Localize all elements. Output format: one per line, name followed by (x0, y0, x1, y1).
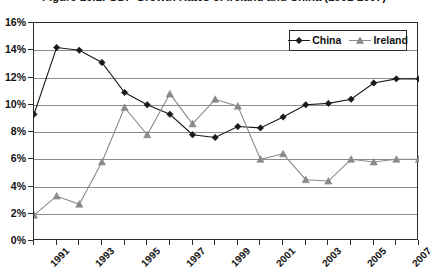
series-line (34, 94, 419, 215)
x-tick-label: 2001 (275, 246, 298, 269)
y-tick-label: 8% (11, 126, 26, 137)
data-point (235, 123, 241, 129)
data-point (393, 76, 399, 82)
legend-entry-ireland: Ireland (349, 35, 407, 46)
x-tick-label: 2007 (411, 246, 434, 269)
series-china (34, 44, 419, 140)
data-point (280, 150, 287, 157)
x-tick-label: 2003 (320, 246, 343, 269)
legend-label-ireland: Ireland (373, 35, 407, 46)
x-axis-labels: 199119931995199719992001200320052007 (0, 240, 428, 269)
chart-title: Figure 16.1: GDP Growth Rates of Ireland… (0, 0, 428, 3)
series-line (34, 48, 419, 138)
data-point (76, 201, 83, 208)
data-point (98, 158, 105, 165)
data-series-layer (34, 23, 419, 241)
y-tick-label: 2% (11, 208, 26, 219)
series-ireland (34, 90, 419, 218)
y-axis: 0%2%4%6%8%10%12%14%16% (0, 0, 33, 269)
data-point (325, 100, 331, 106)
plot-area (33, 22, 418, 240)
legend-label-china: China (312, 35, 341, 46)
y-tick-label: 6% (11, 153, 26, 164)
data-point (144, 102, 150, 108)
y-tick-label: 12% (5, 71, 26, 82)
data-point (76, 47, 82, 53)
chart-legend: China Ireland (289, 30, 407, 51)
x-tick-label: 1997 (184, 246, 207, 269)
data-point (212, 96, 219, 103)
y-tick-label: 14% (5, 44, 26, 55)
ireland-marker-icon (349, 35, 371, 46)
y-tick-label: 16% (5, 17, 26, 28)
data-point (34, 111, 37, 117)
data-point (303, 102, 309, 108)
data-point (212, 134, 218, 140)
legend-marker (349, 35, 371, 46)
legend-entry-china: China (288, 35, 341, 46)
x-tick-label: 1995 (139, 246, 162, 269)
x-tick-label: 1993 (94, 246, 117, 269)
data-point (347, 156, 354, 163)
legend-marker (288, 35, 310, 46)
data-point (53, 192, 60, 199)
data-point (53, 44, 59, 50)
x-tick-label: 1999 (230, 246, 253, 269)
data-point (416, 76, 419, 82)
data-point (166, 90, 173, 97)
y-tick-label: 10% (5, 99, 26, 110)
y-tick-label: 4% (11, 180, 26, 191)
china-marker-icon (288, 35, 310, 46)
x-tick-label: 1991 (49, 246, 72, 269)
data-point (280, 114, 286, 120)
data-point (121, 104, 128, 111)
x-tick-label: 2005 (366, 246, 389, 269)
data-point (257, 125, 263, 131)
